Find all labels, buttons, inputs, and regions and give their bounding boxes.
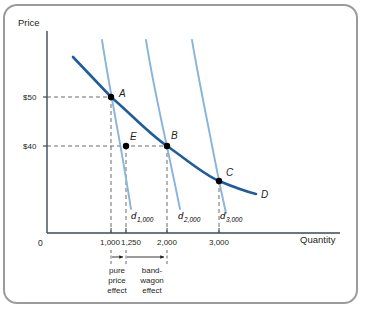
curve-label-d-3000: d 3,000 bbox=[220, 210, 243, 223]
point-marker-A[interactable] bbox=[108, 94, 114, 100]
curve-d-2000 bbox=[146, 40, 180, 209]
axis-group bbox=[47, 31, 340, 233]
annotation-bracket-group bbox=[111, 250, 167, 264]
annot-bandwagon-effect-line-3: effect bbox=[142, 286, 162, 295]
point-label-E: E bbox=[130, 131, 137, 142]
annot-pure-price-effect-line-1: pure bbox=[109, 266, 126, 275]
x-tick-label-2000: 2,000 bbox=[157, 238, 178, 247]
curve-d-1000 bbox=[102, 40, 131, 209]
point-label-A: A bbox=[118, 88, 126, 99]
y-tick-label-40: $40 bbox=[23, 142, 37, 151]
point-label-C: C bbox=[226, 167, 234, 178]
annotation-bandwagon-effect: band- wagon effect bbox=[139, 266, 164, 295]
x-tick-labels: 1,000 1,250 2,000 3,000 bbox=[100, 238, 230, 247]
annot-pure-price-effect-line-3: effect bbox=[107, 286, 127, 295]
curve-label-D: D bbox=[261, 189, 268, 200]
x-tick-label-1250: 1,250 bbox=[121, 238, 142, 247]
annot-bandwagon-effect-line-2: wagon bbox=[139, 276, 164, 285]
curve-label-d-2000-subscript: 2,000 bbox=[183, 216, 201, 223]
y-axis-title: Price bbox=[18, 17, 40, 28]
annot-bandwagon-effect-line-1: band- bbox=[142, 266, 163, 275]
individual-demand-curves bbox=[102, 40, 226, 213]
x-tick-label-3000: 3,000 bbox=[209, 238, 230, 247]
x-tick-label-1000: 1,000 bbox=[100, 238, 121, 247]
annotation-pure-price-effect: pure price effect bbox=[107, 266, 127, 295]
x-axis-title: Quantity bbox=[300, 234, 336, 245]
x-tick-group bbox=[111, 228, 219, 233]
curve-label-d-2000: d 2,000 bbox=[178, 210, 201, 223]
point-marker-E[interactable] bbox=[123, 143, 129, 149]
point-marker-B[interactable] bbox=[164, 143, 170, 149]
point-marker-C[interactable] bbox=[216, 178, 222, 184]
y-tick-group: $50 $40 bbox=[23, 93, 47, 151]
curve-label-d-1000-subscript: 1,000 bbox=[137, 216, 154, 223]
curve-d-3000 bbox=[192, 40, 226, 213]
curve-label-d-1000: d 1,000 bbox=[131, 210, 154, 223]
point-label-B: B bbox=[171, 130, 178, 141]
annot-pure-price-effect-line-2: price bbox=[108, 276, 126, 285]
demand-curve-chart: Price Quantity 0 $50 $40 1,000 1,250 2,0… bbox=[0, 0, 365, 312]
origin-label: 0 bbox=[38, 238, 43, 248]
y-tick-label-50: $50 bbox=[23, 93, 37, 102]
curve-label-d-3000-subscript: 3,000 bbox=[226, 216, 243, 223]
